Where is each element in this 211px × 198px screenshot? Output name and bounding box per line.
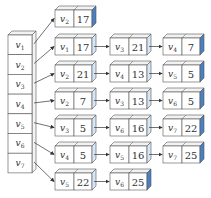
- node-weight: 16: [132, 123, 145, 134]
- vertex-cell-v4: v4: [8, 94, 32, 114]
- node-weight: 22: [77, 177, 90, 188]
- adjacency-lists: v217v117v321v47v221v413v55v27v313v65v35v…: [55, 6, 204, 190]
- node-weight: 5: [188, 96, 194, 107]
- list-node-v4-v6: v65: [163, 88, 204, 109]
- list-node-v5-v7: v722: [163, 115, 204, 136]
- list-node-v3-v5: v55: [163, 61, 204, 82]
- adjacency-list-diagram: v1v2v3v4v5v6v7 v217v117v321v47v221v413v5…: [0, 0, 211, 198]
- vertex-cell-v6: v6: [8, 134, 32, 154]
- list-node-v2-v3: v321: [110, 34, 151, 55]
- node-weight: 17: [77, 42, 90, 53]
- list-node-v4-v3: v313: [110, 88, 151, 109]
- list-node-v1-v2: v217: [55, 6, 96, 27]
- node-weight: 13: [132, 96, 145, 107]
- node-weight: 25: [132, 177, 145, 188]
- list-node-v4-v2: v27: [55, 88, 96, 109]
- vertex-cell-v2: v2: [8, 55, 32, 75]
- node-weight: 22: [185, 123, 198, 134]
- node-weight: 21: [132, 42, 145, 53]
- list-node-v7-v5: v522: [55, 169, 96, 190]
- list-node-v6-v5: v516: [110, 142, 151, 163]
- node-weight: 5: [188, 69, 194, 80]
- vertex-array: v1v2v3v4v5v6v7: [8, 31, 36, 173]
- list-node-v6-v4: v45: [55, 142, 96, 163]
- vertex-cell-v7: v7: [8, 153, 32, 173]
- vertex-cell-v3: v3: [8, 74, 32, 94]
- node-weight: 21: [77, 69, 90, 80]
- vertex-cell-v5: v5: [8, 114, 32, 134]
- node-weight: 7: [80, 96, 86, 107]
- list-node-v6-v7: v725: [163, 142, 204, 163]
- node-weight: 25: [185, 150, 198, 161]
- list-node-v5-v6: v616: [110, 115, 151, 136]
- node-weight: 5: [80, 123, 86, 134]
- node-weight: 13: [132, 69, 145, 80]
- list-node-v2-v4: v47: [163, 34, 204, 55]
- vertex-cell-v1: v1: [8, 35, 32, 55]
- list-node-v3-v2: v221: [55, 61, 96, 82]
- node-weight: 7: [188, 42, 194, 53]
- list-node-v2-v1: v117: [55, 34, 96, 55]
- list-node-v7-v6: v625: [110, 169, 151, 190]
- node-weight: 17: [77, 14, 90, 25]
- list-node-v3-v4: v413: [110, 61, 151, 82]
- node-weight: 5: [80, 150, 86, 161]
- node-weight: 16: [132, 150, 145, 161]
- list-node-v5-v3: v35: [55, 115, 96, 136]
